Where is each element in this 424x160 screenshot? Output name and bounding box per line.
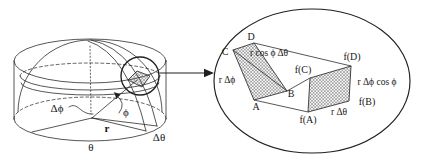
spherical-surface-element-figure: Δϕ ϕ r Δθ θ C D A B f(C) f(D) f(A) f(B) …: [0, 0, 424, 160]
label-edge-top: r cos ϕ Δθ: [250, 48, 289, 58]
base-radius-line: [92, 118, 146, 131]
label-fA: f(A): [299, 114, 316, 126]
label-theta: θ: [88, 141, 93, 153]
slant-radius-line: [92, 80, 137, 118]
zoom-detail-ellipse-group: C D A B f(C) f(D) f(A) f(B) r cos ϕ Δθ r…: [214, 9, 410, 153]
figure-canvas: Δϕ ϕ r Δθ θ C D A B f(C) f(D) f(A) f(B) …: [0, 0, 424, 160]
label-edge-bottom: r Δθ: [331, 107, 348, 117]
label-fD: f(D): [343, 51, 360, 63]
label-phi: ϕ: [123, 106, 129, 118]
label-r: r: [105, 122, 110, 134]
cylinder-bottom-back-arc: [14, 97, 166, 119]
label-corner-B: B: [288, 88, 295, 99]
zoom-arrow-head-icon: [204, 69, 214, 77]
delta-phi-pointer-line: [69, 105, 93, 114]
cylinder-hemisphere-sketch: Δϕ ϕ r Δθ θ: [14, 39, 214, 153]
vertical-axis-dotted: [90, 46, 91, 114]
label-edge-left: r Δϕ: [219, 75, 236, 85]
function-wall-quad: [308, 66, 351, 112]
base-wedge-right-line: [92, 118, 157, 126]
label-delta-theta: Δθ: [153, 131, 165, 143]
base-wedge-left-line: [32, 118, 92, 132]
label-corner-C: C: [222, 46, 229, 57]
label-edge-right: r Δϕ cos ϕ: [357, 77, 396, 87]
label-fB: f(B): [359, 96, 376, 108]
connector-A-to-fA: [254, 100, 308, 112]
label-delta-phi: Δϕ: [51, 102, 64, 114]
label-corner-D: D: [247, 31, 254, 42]
label-fC: f(C): [295, 64, 312, 76]
label-corner-A: A: [252, 101, 260, 112]
